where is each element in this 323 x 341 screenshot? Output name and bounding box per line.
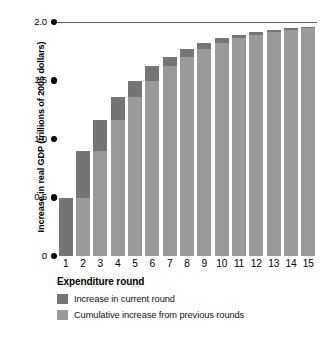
bar xyxy=(232,35,246,256)
bar-segment-current-round xyxy=(163,57,177,66)
chart-figure: Increase in real GDP (trillions of 2005 … xyxy=(0,0,323,341)
bar-segment-current-round xyxy=(76,151,90,198)
bar xyxy=(215,38,229,256)
bar-segment-cumulative xyxy=(145,81,159,257)
bar xyxy=(59,198,73,257)
x-tick-label: 6 xyxy=(144,258,161,269)
bar-segment-cumulative xyxy=(284,30,298,256)
bar-segment-cumulative xyxy=(249,35,263,256)
x-tick-label: 14 xyxy=(282,258,299,269)
x-tick-label: 2 xyxy=(74,258,91,269)
x-tick-label: 13 xyxy=(265,258,282,269)
bar xyxy=(249,32,263,256)
bar-segment-cumulative xyxy=(197,49,211,256)
bar xyxy=(267,30,281,256)
chart-legend: Increase in current roundCumulative incr… xyxy=(57,292,317,324)
bar-segment-current-round xyxy=(128,81,142,97)
bar-segment-current-round xyxy=(93,120,107,150)
x-tick-label: 4 xyxy=(109,258,126,269)
bar-segment-current-round xyxy=(59,198,73,257)
legend-item: Increase in current round xyxy=(57,292,317,306)
x-tick-label: 5 xyxy=(126,258,143,269)
x-tick-label: 15 xyxy=(300,258,317,269)
bar-segment-cumulative xyxy=(215,43,229,256)
y-tick-label: 0 xyxy=(5,250,47,261)
bar-segment-current-round xyxy=(145,66,159,80)
bar-segment-current-round xyxy=(180,49,194,57)
bar-segment-current-round xyxy=(111,97,125,120)
x-tick-label: 12 xyxy=(248,258,265,269)
bar xyxy=(197,43,211,256)
y-tick-label: 1.5 xyxy=(5,74,47,85)
bar xyxy=(284,28,298,256)
caption-cutoff xyxy=(12,332,312,341)
x-tick-label: 8 xyxy=(178,258,195,269)
bar xyxy=(111,97,125,256)
bar xyxy=(145,66,159,256)
legend-label: Increase in current round xyxy=(74,294,175,304)
bar xyxy=(128,81,142,257)
bar-segment-cumulative xyxy=(76,198,90,257)
y-tick-label: 0.5 xyxy=(5,191,47,202)
x-tick-label: 9 xyxy=(196,258,213,269)
bar-segment-cumulative xyxy=(180,57,194,256)
bar xyxy=(301,27,315,256)
y-tick-label: 2.0 xyxy=(5,16,47,27)
x-tick-label: 10 xyxy=(213,258,230,269)
x-tick-label: 7 xyxy=(161,258,178,269)
bar-segment-cumulative xyxy=(128,97,142,256)
bar-segment-cumulative xyxy=(301,28,315,256)
bar-segment-cumulative xyxy=(93,151,107,256)
bar xyxy=(76,151,90,256)
x-axis-title: Expenditure round xyxy=(57,276,144,287)
bar xyxy=(180,49,194,256)
bar-segment-cumulative xyxy=(163,66,177,256)
y-tick-label: 1.0 xyxy=(5,133,47,144)
bar xyxy=(163,57,177,256)
x-axis-ticks: 123456789101112131415 xyxy=(57,258,317,274)
x-tick-label: 11 xyxy=(230,258,247,269)
bar-segment-cumulative xyxy=(111,120,125,256)
x-tick-label: 1 xyxy=(57,258,74,269)
bar-segment-cumulative xyxy=(267,32,281,256)
legend-swatch xyxy=(57,294,68,304)
bar-series-group xyxy=(57,22,317,256)
legend-swatch xyxy=(57,310,68,320)
legend-label: Cumulative increase from previous rounds xyxy=(74,310,244,320)
x-tick-label: 3 xyxy=(92,258,109,269)
legend-item: Cumulative increase from previous rounds xyxy=(57,308,317,322)
bar xyxy=(93,120,107,256)
bar-segment-cumulative xyxy=(232,38,246,256)
